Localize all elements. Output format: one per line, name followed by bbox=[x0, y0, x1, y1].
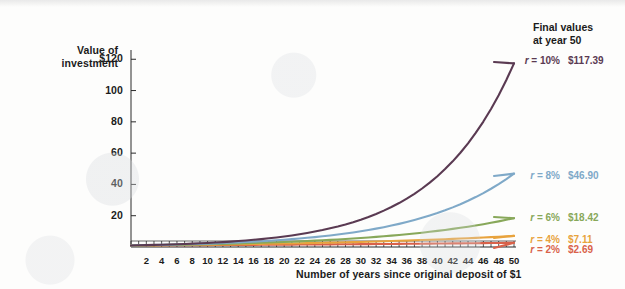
series-leader bbox=[494, 62, 514, 63]
chart-page: Value of investment Number of years sinc… bbox=[0, 0, 625, 289]
series-leader bbox=[494, 217, 514, 218]
chart-plot bbox=[0, 0, 625, 289]
series-line bbox=[131, 174, 514, 246]
series-line bbox=[131, 63, 514, 245]
